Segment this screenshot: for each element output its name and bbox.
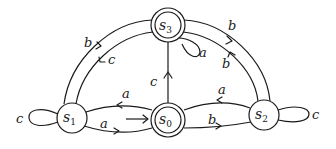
state-s1[interactable]: s1: [57, 103, 87, 133]
label-s2-to-s0: a: [218, 82, 226, 97]
label-s1-to-s0: a: [100, 116, 108, 131]
label-s2-loop: c: [312, 107, 320, 122]
loop-s2: [278, 107, 309, 122]
label-s0-to-s2: b: [208, 112, 216, 127]
arrowhead-s1-to-s0: [114, 128, 119, 134]
loop-s3: [178, 38, 200, 57]
arrowhead-s2-to-s0: [217, 97, 222, 103]
label-s0-to-s3: c: [150, 74, 158, 89]
state-s3[interactable]: s3: [151, 8, 185, 42]
edge-s0-to-s2: [184, 122, 251, 128]
arrowhead-s1-to-s3: [96, 42, 101, 49]
label-s0-to-s1: a: [122, 86, 130, 101]
label-s3-to-s1: c: [108, 52, 116, 67]
arrowhead-s0-to-s1: [117, 102, 122, 108]
state-s0[interactable]: s0: [151, 103, 185, 137]
automaton-diagram: s3 s0 s1 s2 b c b b a c a a a b c c: [0, 0, 336, 149]
edge-s2-to-s0: [184, 103, 250, 110]
label-s1-to-s3: b: [84, 35, 92, 50]
label-s2-to-s3: b: [222, 56, 230, 71]
loop-s1: [29, 110, 58, 126]
state-s2[interactable]: s2: [249, 100, 279, 130]
label-s3-to-s2: b: [228, 18, 236, 33]
label-s1-loop: c: [16, 111, 24, 126]
arrowhead-s3-to-s1: [99, 57, 105, 62]
label-s3-loop: a: [199, 45, 207, 60]
